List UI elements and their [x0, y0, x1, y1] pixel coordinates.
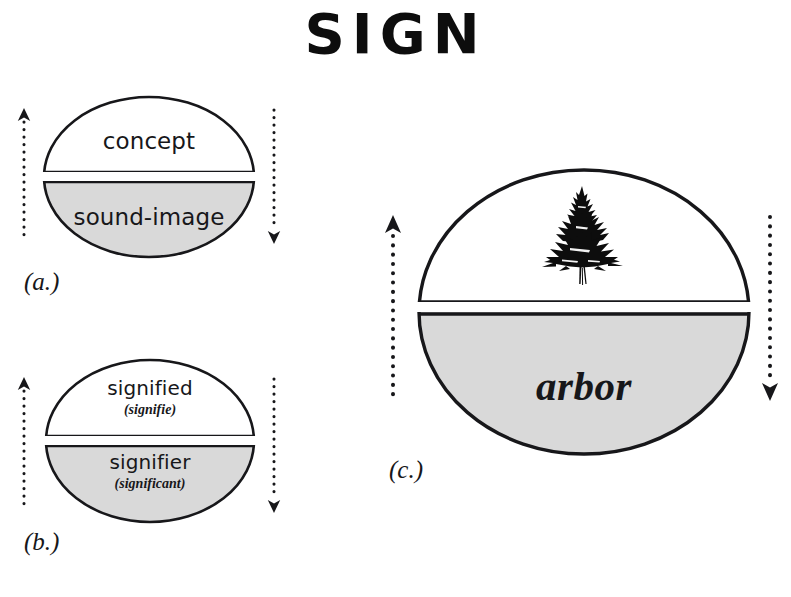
diagram-c-left-arrow-up — [383, 215, 403, 401]
diagram-c-caption: (c.) — [389, 456, 423, 484]
diagram-c-right-arrow-down — [760, 215, 780, 401]
diagram-c: arbor (c.) — [0, 0, 791, 597]
diagram-c-ellipse — [417, 168, 751, 458]
sign-diagram-figure: SIGN — [0, 0, 791, 597]
